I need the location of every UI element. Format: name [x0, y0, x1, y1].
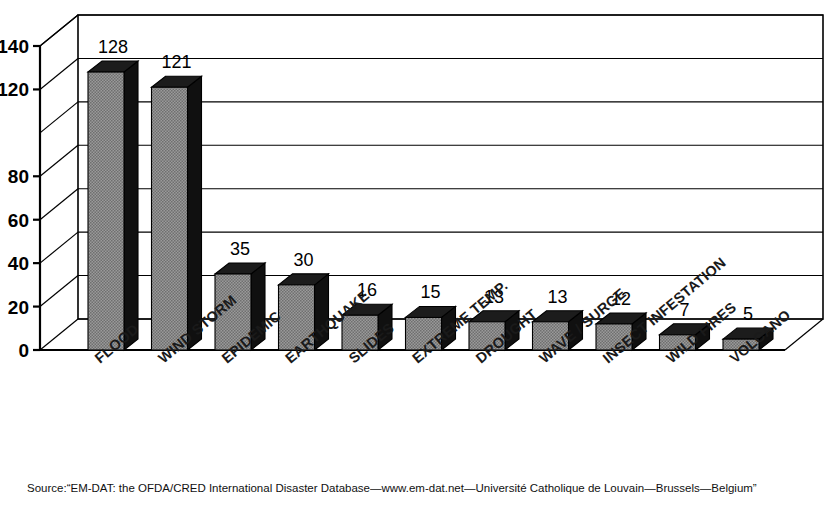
top-left-depth-edge — [40, 15, 78, 46]
y-tick-label: 20 — [8, 297, 29, 318]
depth-connector — [40, 145, 78, 176]
bar-side-face — [188, 76, 202, 350]
chart-container: 020406080120140 1281213530161513131275 F… — [0, 0, 832, 505]
y-axis-tick-labels: 020406080120140 — [0, 36, 40, 361]
bar-side-face — [124, 61, 138, 350]
bar-value-label: 35 — [230, 239, 250, 259]
depth-connector — [40, 232, 78, 263]
bar-chart: 020406080120140 1281213530161513131275 F… — [0, 0, 832, 505]
bar-value-label: 121 — [161, 52, 191, 72]
depth-connector — [40, 189, 78, 220]
bar-value-label: 128 — [98, 37, 128, 57]
floor-right-depth-edge — [785, 319, 823, 350]
y-tick-label: 40 — [8, 253, 29, 274]
bar-front-face — [88, 72, 124, 350]
source-caption: Source:“EM-DAT: the OFDA/CRED Internatio… — [27, 482, 757, 494]
y-tick-label: 60 — [8, 210, 29, 231]
bar-front-face — [152, 87, 188, 350]
y-tick-label: 120 — [0, 79, 29, 100]
y-tick-label: 0 — [18, 340, 29, 361]
y-tick-label: 140 — [0, 36, 29, 57]
depth-connector — [40, 58, 78, 89]
depth-connector — [40, 102, 78, 133]
bar-value-label: 30 — [293, 250, 313, 270]
bar-value-label: 13 — [547, 287, 567, 307]
depth-connector — [40, 276, 78, 307]
y-tick-label: 80 — [8, 166, 29, 187]
bar-value-label: 15 — [420, 282, 440, 302]
bar-value-label: 5 — [743, 304, 753, 324]
depth-connector — [40, 319, 78, 350]
